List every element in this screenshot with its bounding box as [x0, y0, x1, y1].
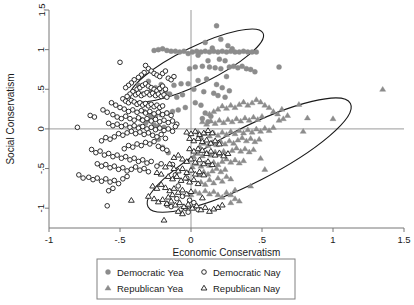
point-democratic-yea	[223, 58, 228, 63]
point-democratic-nay	[101, 108, 106, 113]
legend-label: Democratic Yea	[117, 267, 184, 278]
legend-label: Democratic Nay	[213, 267, 281, 278]
point-democratic-nay	[169, 113, 174, 118]
point-democratic-yea	[179, 81, 184, 86]
point-democratic-nay	[170, 129, 175, 134]
point-democratic-nay	[172, 74, 177, 79]
point-democratic-nay	[111, 112, 116, 117]
point-democratic-nay	[75, 125, 80, 130]
point-democratic-nay	[109, 100, 114, 105]
point-democratic-nay	[149, 125, 154, 130]
point-democratic-yea	[176, 107, 181, 112]
point-democratic-nay	[142, 132, 147, 137]
point-democratic-nay	[170, 119, 175, 124]
point-democratic-yea	[218, 37, 223, 42]
point-democratic-nay	[122, 107, 127, 112]
y-tick-label: 1	[36, 47, 47, 52]
point-democratic-nay	[123, 123, 128, 128]
point-democratic-yea	[196, 53, 201, 58]
point-democratic-nay	[105, 110, 110, 115]
x-axis-title: Economic Conservatism	[173, 247, 281, 258]
point-democratic-yea	[214, 23, 219, 28]
point-democratic-nay	[136, 75, 141, 80]
point-democratic-yea	[207, 65, 212, 70]
point-democratic-yea	[152, 48, 157, 53]
point-democratic-nay	[125, 174, 130, 179]
point-democratic-nay	[136, 116, 141, 121]
point-democratic-nay	[165, 95, 170, 100]
point-democratic-nay	[130, 108, 135, 113]
point-democratic-nay	[163, 136, 168, 141]
point-democratic-nay	[77, 173, 82, 178]
point-democratic-yea	[191, 87, 196, 92]
legend-entry-democratic_yea[interactable]: Democratic Yea	[106, 267, 185, 278]
point-democratic-nay	[140, 158, 145, 163]
x-tick-label: 1	[330, 234, 335, 245]
point-democratic-nay	[152, 139, 157, 144]
point-democratic-nay	[99, 139, 104, 144]
point-democratic-nay	[115, 153, 120, 158]
point-democratic-yea	[171, 83, 176, 88]
point-democratic-yea	[186, 51, 191, 56]
point-democratic-nay	[160, 104, 165, 109]
legend-label: Republican Nay	[213, 283, 280, 294]
point-democratic-yea	[174, 95, 179, 100]
point-democratic-nay	[122, 146, 127, 151]
point-democratic-nay	[146, 169, 151, 174]
point-democratic-yea	[214, 82, 219, 87]
point-democratic-nay	[111, 186, 116, 191]
y-tick-label: .5	[36, 85, 47, 93]
point-democratic-yea	[277, 65, 282, 70]
scatter-plot-figure: -1-.50.511.5-1-.50.511.5 Economic Conser…	[0, 0, 414, 305]
point-democratic-yea	[218, 66, 223, 71]
x-tick-label: 0	[188, 234, 193, 245]
point-democratic-nay	[159, 132, 164, 137]
point-democratic-yea	[224, 74, 229, 79]
point-democratic-yea	[217, 57, 222, 62]
point-democratic-nay	[140, 124, 145, 129]
point-democratic-nay	[125, 94, 130, 99]
point-democratic-yea	[220, 85, 225, 90]
point-democratic-nay	[105, 204, 110, 209]
point-democratic-nay	[121, 165, 126, 170]
point-democratic-nay	[86, 175, 91, 180]
point-democratic-nay	[123, 114, 128, 119]
x-tick-label: -.5	[114, 234, 125, 245]
point-democratic-yea	[187, 66, 192, 71]
point-democratic-nay	[166, 127, 171, 132]
point-democratic-nay	[118, 60, 123, 65]
point-democratic-nay	[149, 159, 154, 164]
legend-entry-democratic_nay[interactable]: Democratic Nay	[202, 267, 281, 278]
point-democratic-nay	[129, 167, 134, 172]
point-democratic-nay	[165, 111, 170, 116]
point-democratic-yea	[200, 64, 205, 69]
point-democratic-yea	[225, 43, 230, 48]
point-democratic-nay	[106, 151, 111, 156]
point-democratic-nay	[176, 184, 181, 189]
point-democratic-yea	[206, 58, 211, 63]
y-axis-title: Social Conservatism	[5, 73, 16, 164]
point-democratic-nay	[121, 177, 126, 182]
point-democratic-nay	[81, 176, 86, 181]
point-democratic-yea	[215, 93, 220, 98]
point-democratic-nay	[132, 123, 137, 128]
point-democratic-nay	[95, 176, 100, 181]
point-democratic-yea	[106, 270, 111, 275]
point-democratic-yea	[180, 92, 185, 97]
x-tick-label: .5	[258, 234, 266, 245]
point-democratic-nay	[132, 118, 137, 123]
point-democratic-nay	[163, 69, 168, 74]
point-democratic-nay	[135, 142, 140, 147]
point-democratic-nay	[155, 164, 160, 169]
point-democratic-nay	[148, 109, 153, 114]
legend-entry-republican_yea[interactable]: Republican Yea	[105, 283, 184, 294]
x-tick-label: 1.5	[397, 234, 410, 245]
point-democratic-nay	[106, 121, 111, 126]
point-democratic-nay	[155, 135, 160, 140]
legend-entry-republican_nay[interactable]: Republican Nay	[201, 283, 280, 294]
point-democratic-nay	[112, 178, 117, 183]
point-democratic-yea	[223, 95, 228, 100]
point-democratic-nay	[159, 161, 164, 166]
y-tick-label: 1.5	[36, 3, 47, 16]
point-democratic-nay	[92, 115, 97, 120]
